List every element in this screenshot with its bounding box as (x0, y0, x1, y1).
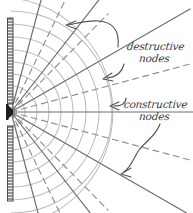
label-constructive-line2: nodes (116, 111, 193, 123)
destructive-ray (11, 112, 108, 210)
wave-interference-diagram: destructive nodes constructive nodes (0, 0, 193, 213)
constructive-ray (11, 112, 190, 213)
constructive-ray (11, 112, 160, 213)
wavefront-arc (13, 0, 113, 213)
lower-barrier (8, 126, 14, 201)
annotation-destructive-nodes: destructive nodes (118, 41, 192, 64)
label-constructive-line1: constructive (123, 98, 188, 110)
circular-wavefronts (11, 0, 113, 213)
arrow-destructive-lower (107, 64, 124, 78)
arrow-constructive-lower (124, 124, 160, 172)
upper-barrier (8, 18, 14, 104)
annotation-constructive-nodes: constructive nodes (116, 99, 193, 122)
destructive-ray (11, 14, 108, 112)
label-destructive-line2: nodes (118, 53, 191, 65)
label-destructive-line1: destructive (126, 40, 185, 52)
